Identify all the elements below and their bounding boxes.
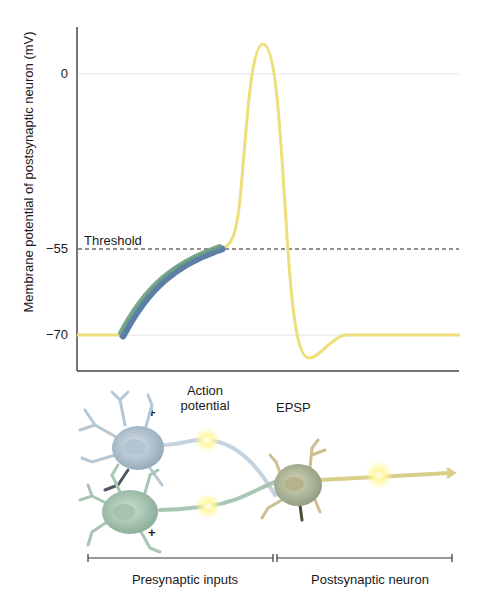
- nucleus-top: [124, 439, 146, 455]
- neuron-diagram: [0, 0, 481, 608]
- presynaptic-inputs-label: Presynaptic inputs: [130, 572, 240, 587]
- postsynaptic-neuron-label: Postsynaptic neuron: [305, 572, 435, 587]
- action-potential-glow-bottom: [195, 493, 221, 519]
- action-potential-glow-post: [365, 461, 393, 489]
- nucleus-post: [284, 477, 304, 491]
- presynaptic-neuron-top: [80, 392, 275, 495]
- region-brackets: [88, 554, 452, 562]
- nucleus-bottom: [113, 504, 135, 520]
- action-potential-glow-top: [194, 427, 220, 453]
